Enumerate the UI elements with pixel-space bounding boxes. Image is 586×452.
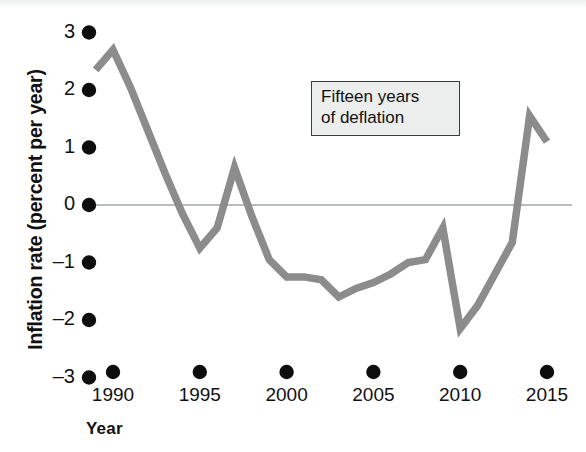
x-tick-label: 1990: [78, 384, 148, 406]
y-tick-dot: [82, 255, 96, 269]
x-tick-dot: [540, 365, 554, 379]
y-tick-label: 3: [35, 20, 75, 43]
x-tick-dot: [453, 365, 467, 379]
y-tick-dot: [82, 313, 96, 327]
x-tick-label: 2010: [425, 384, 495, 406]
deflation-callout: Fifteen years of deflation: [311, 81, 460, 136]
x-tick-label: 1995: [165, 384, 235, 406]
y-tick-dot: [82, 25, 96, 39]
x-axis-title: Year: [86, 419, 123, 439]
x-tick-label: 2000: [252, 384, 322, 406]
y-tick-dot: [82, 140, 96, 154]
y-tick-dot: [82, 83, 96, 97]
x-tick-dot: [106, 365, 120, 379]
deflation-callout-line-1: Fifteen years: [321, 87, 452, 108]
x-tick-label: 2015: [512, 384, 582, 406]
x-tick-dot: [279, 365, 293, 379]
x-tick-dot: [193, 365, 207, 379]
x-tick-dot: [366, 365, 380, 379]
x-tick-label: 2005: [338, 384, 408, 406]
y-tick-dot: [82, 198, 96, 212]
deflation-callout-line-2: of deflation: [321, 108, 452, 129]
y-tick-dot: [82, 370, 96, 384]
y-axis-title: Inflation rate (percent per year): [24, 45, 47, 375]
chart-figure: 3210–1–2–3 199019952000200520102015 Infl…: [0, 0, 586, 452]
